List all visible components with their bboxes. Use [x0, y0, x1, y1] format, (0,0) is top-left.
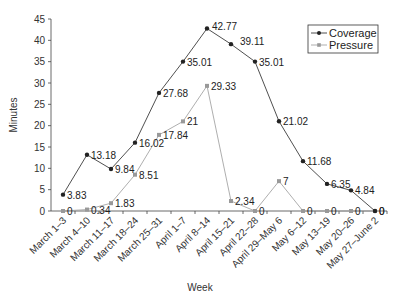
data-point [133, 140, 137, 144]
data-label: 35.01 [187, 57, 212, 68]
data-point [253, 59, 257, 63]
legend-label-coverage: Coverage [329, 27, 377, 39]
data-label: 21 [187, 116, 199, 127]
y-tick-label: 35 [34, 56, 46, 67]
y-tick-label: 45 [34, 14, 46, 25]
data-point [205, 26, 209, 30]
data-point [277, 119, 281, 123]
data-label: 11.68 [307, 156, 332, 167]
data-label: 4.84 [355, 185, 375, 196]
legend-label-pressure: Pressure [329, 39, 373, 51]
y-tick-label: 0 [39, 206, 45, 217]
data-label: 2.34 [235, 196, 255, 207]
data-point [61, 192, 65, 196]
y-tick-label: 40 [34, 35, 46, 46]
data-point [109, 167, 113, 171]
data-label: 29.33 [211, 81, 236, 92]
data-point [157, 133, 161, 137]
y-tick-label: 15 [34, 142, 46, 153]
data-label: 0 [379, 206, 385, 217]
data-point [157, 91, 161, 95]
data-point [181, 119, 185, 123]
data-point [61, 209, 65, 213]
square-marker-icon [317, 43, 321, 47]
data-point [229, 199, 233, 203]
data-point [85, 208, 89, 212]
data-label: 27.68 [163, 88, 188, 99]
data-point [325, 209, 329, 213]
x-axis: March 1–3March 4–10March 11–17March 18–2… [27, 211, 387, 271]
y-axis-title: Minutes [8, 97, 19, 132]
data-point [205, 84, 209, 88]
data-label: 0 [355, 206, 361, 217]
data-point [253, 209, 257, 213]
data-label: 6.35 [331, 179, 351, 190]
y-tick-label: 5 [39, 184, 45, 195]
data-label: 0.34 [91, 205, 111, 216]
y-tick-label: 20 [34, 120, 46, 131]
data-label: 1.83 [115, 198, 135, 209]
legend: Coverage Pressure [308, 25, 378, 53]
y-tick-label: 25 [34, 99, 46, 110]
data-point [85, 153, 89, 157]
data-point [349, 209, 353, 213]
data-label: 0 [307, 206, 313, 217]
data-label: 0 [259, 206, 265, 217]
data-label: 8.51 [139, 170, 159, 181]
data-label: 21.02 [283, 116, 308, 127]
circle-marker-icon [317, 31, 321, 35]
data-label: 0 [331, 206, 337, 217]
x-axis-title: Week [187, 282, 213, 293]
data-label: 9.84 [115, 164, 135, 175]
data-label: 3.83 [67, 190, 87, 201]
y-tick-label: 30 [34, 78, 46, 89]
data-label: 17.84 [163, 130, 188, 141]
line-chart: 051015202530354045 March 1–3March 4–10Ma… [0, 0, 403, 303]
data-label: 39.11 [240, 36, 265, 47]
data-point [349, 188, 353, 192]
data-label: 42.77 [212, 21, 237, 32]
data-point [109, 201, 113, 205]
data-label: 35.01 [259, 57, 284, 68]
data-label: 0 [67, 206, 73, 217]
data-point [373, 209, 377, 213]
data-point [181, 59, 185, 63]
data-point [325, 182, 329, 186]
data-point [229, 42, 233, 46]
data-label: 16.02 [139, 138, 164, 149]
data-point [301, 159, 305, 163]
y-axis: 051015202530354045 [34, 14, 51, 217]
data-point [301, 209, 305, 213]
data-label: 13.18 [91, 150, 116, 161]
y-tick-label: 10 [34, 163, 46, 174]
data-point [277, 179, 281, 183]
data-label: 7 [283, 176, 289, 187]
